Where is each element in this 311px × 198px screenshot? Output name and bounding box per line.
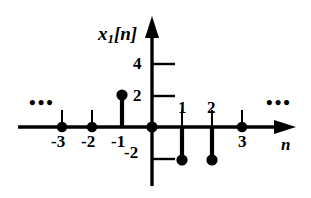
- y-tick-label-2: 2: [133, 87, 142, 104]
- ellipsis-right: •••: [266, 93, 292, 112]
- stem-sample-n-3: [237, 122, 247, 132]
- stem-sample-n-minus-2: [87, 122, 97, 132]
- stem-sample-n-1: [176, 127, 187, 166]
- stem-plot-figure: x1[n] n 4 2 -2 -3 -2 -1 3 1 2 ••• •••: [0, 0, 311, 198]
- x-tick-label-3: 3: [238, 133, 247, 150]
- stem-sample-n-2: [206, 127, 217, 166]
- stem-sample-n-minus-1: [116, 89, 127, 127]
- x-tick-label-minus-3: -3: [51, 133, 65, 150]
- y-axis-label-argument: [n]: [114, 23, 137, 44]
- x-tick-label-1: 1: [178, 99, 187, 116]
- y-tick-label-4: 4: [133, 55, 142, 72]
- x-axis-label: n: [281, 136, 290, 153]
- stem-sample-n-0: [146, 121, 157, 132]
- x-tick-label-2: 2: [207, 99, 216, 116]
- y-axis: [145, 16, 159, 186]
- y-axis-label-main: x: [98, 23, 108, 44]
- stem-sample-n-minus-3: [57, 122, 67, 132]
- x-tick-label-minus-2: -2: [81, 133, 95, 150]
- y-axis-label: x1[n]: [98, 24, 137, 46]
- y-tick-label-minus-2: -2: [124, 144, 138, 161]
- ellipsis-left: •••: [29, 93, 55, 112]
- x-tick-label-minus-1: -1: [111, 133, 125, 150]
- y-axis-ticks: [152, 64, 175, 159]
